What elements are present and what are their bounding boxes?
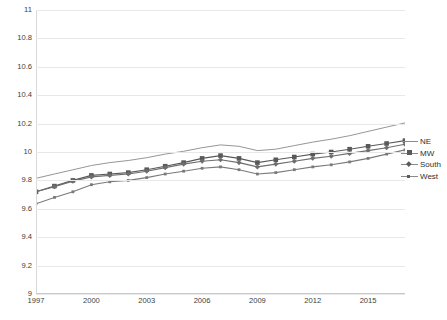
gridline: [36, 124, 405, 125]
legend-label: MW: [420, 149, 434, 158]
y-tick-label: 10: [2, 147, 32, 156]
y-tick-label: 11: [2, 5, 32, 14]
data-point: [236, 160, 241, 165]
data-point: [292, 155, 297, 160]
legend-item-ne[interactable]: NE: [401, 136, 445, 148]
data-point: [218, 157, 223, 162]
chart-container: LOG OF REAL PER CAPITA PCE (1989 DOLARS)…: [0, 0, 447, 320]
data-point: [384, 141, 389, 146]
x-tick-label: 2003: [138, 296, 155, 305]
data-point: [293, 168, 296, 171]
legend-swatch-cross-icon: [401, 172, 418, 181]
gridline: [36, 180, 405, 181]
legend-label: West: [420, 172, 438, 181]
gridline: [36, 237, 405, 238]
legend-item-south[interactable]: South: [401, 159, 445, 171]
data-point: [72, 190, 75, 193]
data-point: [274, 171, 277, 174]
data-point: [218, 153, 223, 158]
y-tick-label: 9.4: [2, 232, 32, 241]
data-point: [347, 147, 352, 152]
legend-item-mw[interactable]: MW: [401, 148, 445, 160]
data-point: [384, 145, 389, 150]
y-axis-tick-labels: 1110.810.610.410.2109.89.69.49.29: [0, 10, 32, 294]
y-tick-label: 10.6: [2, 62, 32, 71]
gridline: [36, 266, 405, 267]
legend-swatch-line-icon: [401, 137, 418, 146]
data-point: [90, 183, 93, 186]
data-point: [145, 176, 148, 179]
x-tick-label: 2012: [304, 296, 321, 305]
gridline: [36, 10, 405, 11]
gridline: [36, 95, 405, 96]
data-point: [182, 170, 185, 173]
legend-label: NE: [420, 137, 431, 146]
y-tick-label: 10.4: [2, 90, 32, 99]
chart-legend: NE MW South West: [401, 136, 445, 182]
y-tick-label: 9.6: [2, 204, 32, 213]
data-point: [273, 162, 278, 167]
data-point: [256, 173, 259, 176]
gridline: [36, 152, 405, 153]
legend-item-west[interactable]: West: [401, 171, 445, 183]
x-tick-label: 1997: [28, 296, 45, 305]
data-point: [310, 156, 315, 161]
data-point: [330, 163, 333, 166]
gridline: [36, 294, 405, 295]
y-tick-label: 10.8: [2, 33, 32, 42]
data-point: [329, 154, 334, 159]
data-point: [348, 161, 351, 164]
data-point: [367, 157, 370, 160]
data-point: [385, 153, 388, 156]
data-point: [274, 158, 279, 163]
x-axis-tick-labels: 1997200020032006200920122015: [36, 296, 405, 312]
gridline: [36, 67, 405, 68]
x-tick-label: 2006: [194, 296, 211, 305]
data-point: [292, 159, 297, 164]
data-point: [238, 168, 241, 171]
data-point: [366, 144, 371, 149]
plot-area: [36, 10, 405, 294]
data-point: [255, 160, 260, 165]
data-point: [219, 166, 222, 169]
y-tick-label: 9.8: [2, 175, 32, 184]
x-tick-label: 2009: [249, 296, 266, 305]
data-point: [255, 164, 260, 169]
data-point: [164, 173, 167, 176]
gridline: [36, 209, 405, 210]
legend-swatch-diamond-icon: [401, 160, 418, 169]
x-tick-label: 2000: [83, 296, 100, 305]
legend-swatch-square-icon: [401, 149, 418, 158]
data-point: [53, 196, 56, 199]
data-point: [201, 167, 204, 170]
legend-label: South: [420, 160, 441, 169]
data-point: [237, 156, 242, 161]
gridline: [36, 38, 405, 39]
y-tick-label: 10.2: [2, 119, 32, 128]
data-point: [311, 166, 314, 169]
x-tick-label: 2015: [360, 296, 377, 305]
y-tick-label: 9.2: [2, 261, 32, 270]
